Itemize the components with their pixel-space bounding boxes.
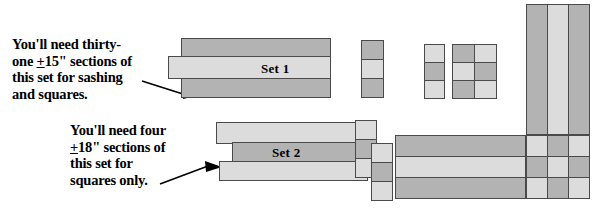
section-a-cell-1: [361, 59, 384, 79]
callout-squares-plusminus: +: [70, 139, 78, 155]
sashing-column-strip-0: [526, 4, 548, 135]
nine-patch-2x3-cell-r0c1: [474, 44, 497, 63]
section-d-cell-0: [371, 143, 393, 163]
nine-patch-3x3-cell-r0c0: [526, 135, 548, 157]
callout-squares: You'll need four +18" sections of this s…: [70, 122, 166, 188]
nine-patch-2x3-cell-r0c0: [452, 44, 475, 63]
callout-squares-line2-post: 18" sections of: [78, 139, 165, 155]
callout-sashing-line3: this set for sashing: [12, 69, 123, 85]
set-2-label: Set 2: [272, 145, 301, 161]
nine-patch-3x3-cell-r2c0: [526, 177, 548, 199]
set-1-strip-bottom: [181, 78, 331, 98]
quilt-diagram: You'll need thirty- one +15" sections of…: [0, 0, 596, 214]
nine-patch-3x3-cell-r0c2: [568, 135, 590, 157]
nine-patch-3x3-cell-r0c1: [547, 135, 569, 157]
callout-sashing-line2-pre: one: [12, 53, 37, 69]
callout-squares-arrow-icon: [158, 160, 228, 188]
set-2-strip-bottom: [219, 161, 368, 181]
sashing-band-strip-0: [395, 135, 526, 157]
nine-patch-2x3-cell-r2c0: [452, 80, 475, 99]
sashing-column-strip-2: [568, 4, 590, 135]
section-d-cell-2: [371, 181, 393, 201]
callout-squares-line4: squares only.: [70, 172, 148, 188]
nine-patch-3x3-cell-r1c1: [547, 156, 569, 178]
nine-patch-2x3-cell-r1c1: [474, 62, 497, 81]
section-b-cell-0: [424, 44, 445, 63]
nine-patch-2x3-cell-r2c1: [474, 80, 497, 99]
nine-patch-3x3-cell-r1c0: [526, 156, 548, 178]
set-1-label: Set 1: [261, 61, 290, 77]
callout-sashing-line1: You'll need thirty-: [12, 36, 121, 52]
set-2-strip-top: [216, 122, 368, 144]
nine-patch-2x3-cell-r1c0: [452, 62, 475, 81]
callout-squares-line1: You'll need four: [70, 122, 166, 138]
section-a-cell-2: [361, 78, 384, 98]
sashing-band-strip-1: [395, 156, 526, 178]
section-d-cell-1: [371, 162, 393, 182]
callout-sashing-line4: and squares.: [12, 86, 88, 102]
set-1-strip-top: [181, 38, 331, 57]
section-a-cell-0: [361, 40, 384, 60]
sashing-column-strip-1: [547, 4, 569, 135]
section-b-cell-2: [424, 80, 445, 99]
set-1-strip-middle: [168, 56, 331, 79]
nine-patch-3x3-cell-r2c1: [547, 177, 569, 199]
section-c-cell-0: [355, 120, 377, 140]
callout-sashing-plusminus: +: [37, 53, 45, 69]
section-b-cell-1: [424, 62, 445, 81]
callout-sashing-line2-post: 15" sections of: [45, 53, 132, 69]
nine-patch-3x3-cell-r1c2: [568, 156, 590, 178]
nine-patch-3x3-cell-r2c2: [568, 177, 590, 199]
callout-sashing: You'll need thirty- one +15" sections of…: [12, 36, 132, 102]
sashing-band-strip-2: [395, 177, 526, 199]
callout-squares-line3: this set for: [70, 155, 133, 171]
